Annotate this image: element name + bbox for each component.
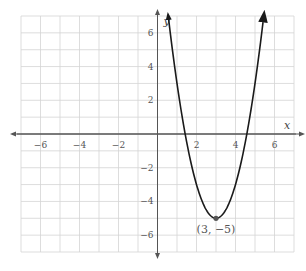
- annotations: (3, −5): [197, 216, 236, 237]
- x-tick-label: 2: [194, 140, 200, 150]
- y-tick-label: 6: [148, 28, 154, 38]
- x-tick-label: −4: [73, 140, 87, 150]
- y-tick-label: −4: [140, 196, 154, 206]
- x-tick-label: −2: [112, 140, 125, 150]
- x-tick-label: 4: [233, 140, 239, 150]
- y-tick-label: 4: [148, 62, 154, 72]
- y-tick-label: −2: [140, 163, 153, 173]
- vertex-point: [213, 216, 218, 221]
- axes: xy: [13, 12, 302, 256]
- vertex-label: (3, −5): [197, 223, 236, 236]
- y-tick-label: 2: [148, 95, 154, 105]
- parabola-chart: xy −6−4−2246642−2−4−6 (3, −5): [0, 0, 306, 271]
- y-tick-label: −6: [140, 230, 154, 240]
- x-axis-label: x: [284, 119, 291, 132]
- x-tick-label: 6: [272, 140, 278, 150]
- x-tick-label: −6: [34, 140, 48, 150]
